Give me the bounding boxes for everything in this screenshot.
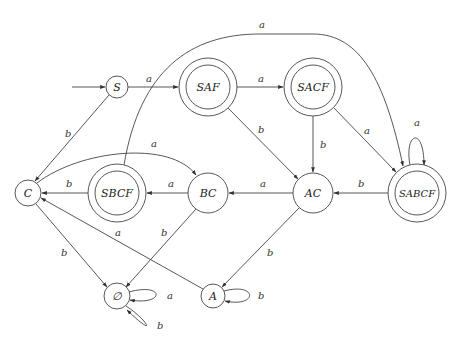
edge-label-saf-ac: b: [258, 124, 264, 135]
edge-sacf-sabcf: [334, 108, 396, 172]
edge-label-sacf-sabcf: a: [364, 125, 370, 136]
state-label-sacf: SACF: [297, 81, 329, 94]
edge-label-sbcf-sabcf: a: [259, 19, 265, 30]
state-label-saf: SAF: [196, 81, 219, 94]
state-label-sbcf: SBCF: [101, 187, 133, 200]
edge-label-bc-empty: b: [161, 227, 167, 238]
edge-label-ac-a: b: [267, 247, 273, 258]
edge-empty-loop-b: [126, 306, 147, 326]
edge-c-empty: [36, 204, 107, 287]
edge-label-c-empty: b: [61, 247, 67, 258]
state-label-sabcf: SABCF: [399, 188, 436, 199]
state-sbcf[interactable]: SBCF: [88, 164, 146, 222]
edge-label-saf-sacf: a: [258, 73, 264, 84]
states: S SAF SACF C SBCF BC: [15, 58, 446, 309]
edge-label-a-loop: b: [258, 290, 264, 301]
edge-a-loop: [224, 289, 250, 302]
edge-s-c: [35, 95, 109, 181]
edge-label-sabcf-loop: a: [414, 117, 420, 128]
edge-label-sabcf-ac: b: [358, 178, 364, 189]
state-bc[interactable]: BC: [188, 173, 228, 213]
edge-bc-empty: [126, 209, 196, 287]
edge-label-s-c: b: [65, 128, 71, 139]
edge-label-empty-loop-a: a: [167, 290, 173, 301]
edge-label-ac-bc: a: [260, 178, 266, 189]
state-label-s: S: [113, 81, 121, 94]
edge-label-sbcf-c: b: [66, 178, 72, 189]
edge-label-empty-loop-b: b: [157, 320, 163, 331]
state-label-ac: AC: [304, 187, 322, 200]
dfa-diagram: a b a b b a a b a a a b: [0, 0, 457, 346]
edge-label-c-bc: a: [151, 138, 157, 149]
state-label-a: A: [208, 290, 217, 303]
edge-empty-loop-a: [129, 290, 156, 301]
state-sabcf[interactable]: SABCF: [388, 164, 446, 222]
state-s[interactable]: S: [106, 76, 128, 98]
state-saf[interactable]: SAF: [179, 58, 237, 116]
state-sacf[interactable]: SACF: [284, 58, 342, 116]
edge-sabcf-loop: [409, 138, 424, 165]
edge-label-s-saf: a: [146, 73, 152, 84]
state-label-empty-set: ∅: [112, 290, 122, 303]
state-c[interactable]: C: [15, 180, 41, 206]
state-ac[interactable]: AC: [293, 173, 333, 213]
transitions: a b a b b a a b a a a b: [35, 19, 424, 331]
edge-saf-ac: [228, 108, 298, 179]
edge-sbcf-sabcf: [124, 34, 403, 166]
state-label-c: C: [24, 187, 33, 200]
edge-label-a-c: a: [115, 227, 121, 238]
state-a[interactable]: A: [201, 284, 225, 308]
edge-label-bc-sbcf: a: [168, 178, 174, 189]
state-label-bc: BC: [199, 187, 217, 200]
edge-label-sacf-ac: b: [320, 139, 326, 150]
state-empty-set[interactable]: ∅: [104, 283, 130, 309]
edge-ac-a: [222, 208, 299, 287]
